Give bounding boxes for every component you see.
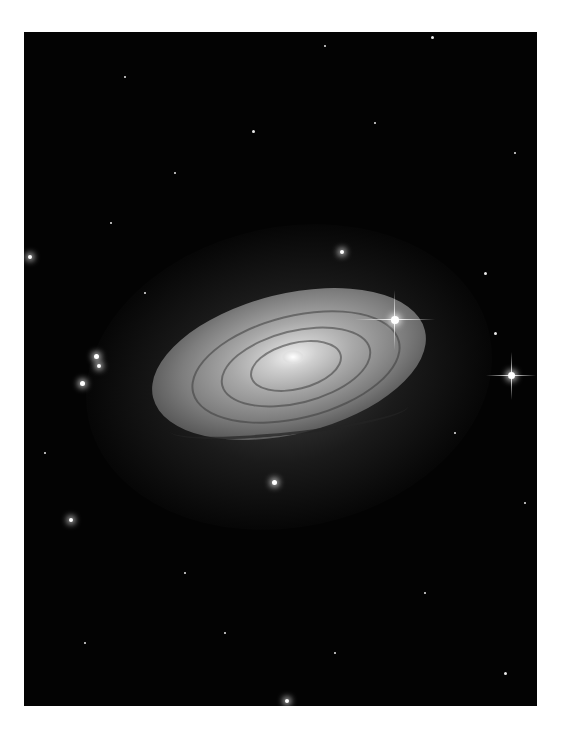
star [44,452,46,454]
star [94,354,99,359]
star [374,122,376,124]
galaxy-core [282,350,304,364]
bright-star [391,316,399,324]
star [174,172,176,174]
star [144,292,146,294]
star [110,222,112,224]
star [424,592,426,594]
star [524,502,526,504]
star [80,381,85,386]
star [431,36,434,39]
star [285,699,289,703]
diffraction-spike [511,352,512,400]
galaxy-photo [24,32,537,706]
star [184,572,186,574]
star [334,652,336,654]
diffraction-spike [355,319,435,320]
star [484,272,487,275]
star [324,45,326,47]
star [272,480,277,485]
star [340,250,344,254]
star [454,432,456,434]
star [69,518,73,522]
star [252,130,255,133]
star [97,364,101,368]
star [84,642,86,644]
star [504,672,507,675]
diffraction-spike [394,290,395,350]
star [494,332,497,335]
star [224,632,226,634]
star [124,76,126,78]
star [28,255,32,259]
star [514,152,516,154]
